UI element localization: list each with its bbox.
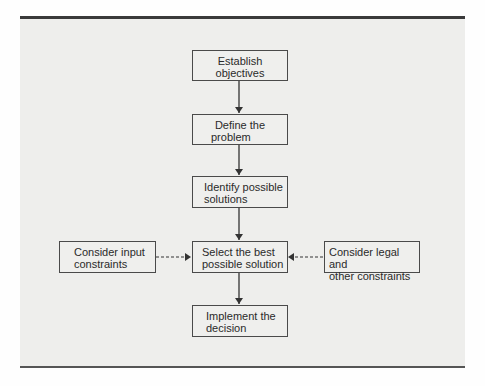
node-select-best-solution: Select the best possible solution [192,241,288,273]
node-establish-objectives: Establish objectives [192,50,288,81]
node-label: Define the [197,119,283,131]
node-legal-constraints: Consider legal and other constraints [324,241,420,273]
node-label: constraints [74,258,155,270]
node-label: other constraints [329,270,419,282]
node-label: Establish [197,55,283,67]
node-define-problem: Define the problem [192,114,288,145]
node-identify-solutions: Identify possible solutions [192,176,288,208]
node-label: Select the best [202,246,287,258]
node-input-constraints: Consider input constraints [59,241,156,273]
node-label: objectives [197,67,283,79]
node-label: Consider input [74,246,155,258]
node-label: solutions [204,193,287,205]
node-label: problem [197,131,283,143]
node-label: decision [206,322,287,334]
node-implement-decision: Implement the decision [192,305,288,337]
node-label: possible solution [202,258,287,270]
node-label: Implement the [206,310,287,322]
node-label: Identify possible [204,181,287,193]
node-label: Consider legal and [329,246,419,270]
